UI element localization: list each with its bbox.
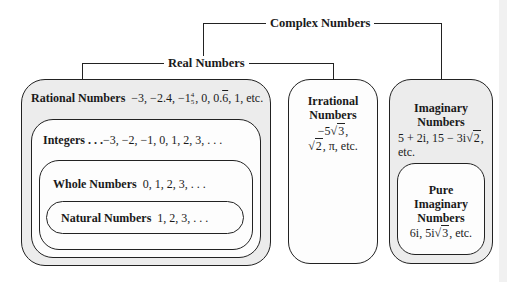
irrational-label-line2: Numbers bbox=[288, 108, 378, 122]
natural-examples: 1, 2, 3, . . . bbox=[157, 211, 208, 225]
rational-numbers-row: Rational Numbers −3, −2.4, −145, 0, 0.6,… bbox=[31, 91, 263, 106]
page-edge-strip bbox=[499, 0, 507, 282]
imaginary-label-line1: Imaginary bbox=[389, 101, 493, 115]
whole-numbers-row: Whole Numbers 0, 1, 2, 3, . . . bbox=[53, 177, 206, 191]
irrational-example-2: √2, π, etc. bbox=[288, 139, 378, 153]
imaginary-label-line2: Numbers bbox=[389, 115, 493, 129]
natural-numbers-row: Natural Numbers 1, 2, 3, . . . bbox=[61, 211, 208, 225]
integers-examples: −3, −2, −1, 0, 1, 2, 3, . . . bbox=[103, 133, 222, 147]
pure-imaginary-label-line2: Imaginary bbox=[397, 197, 485, 211]
integers-row: Integers . . .−3, −2, −1, 0, 1, 2, 3, . … bbox=[43, 133, 222, 147]
imaginary-example-2: etc. bbox=[398, 145, 415, 159]
real-connector-left-vertical bbox=[82, 63, 83, 80]
imaginary-example-1: 5 + 2i, 15 − 3i√2, bbox=[398, 131, 484, 145]
whole-examples: 0, 1, 2, 3, . . . bbox=[143, 177, 206, 191]
irrational-example-1: −5√3, bbox=[288, 124, 378, 138]
fraction: 45 bbox=[191, 92, 195, 106]
pure-imaginary-label-line1: Pure bbox=[397, 183, 485, 197]
real-numbers-label: Real Numbers bbox=[164, 56, 249, 70]
real-connector-right-vertical bbox=[333, 63, 334, 80]
pure-imaginary-example: 6i, 5i√3, etc. bbox=[397, 226, 485, 240]
complex-numbers-label: Complex Numbers bbox=[266, 16, 374, 30]
integers-label: Integers bbox=[43, 133, 85, 147]
irrational-label-line1: Irrational bbox=[288, 94, 378, 108]
rational-examples: −3, −2.4, −1 bbox=[131, 91, 190, 105]
whole-numbers-label: Whole Numbers bbox=[53, 177, 137, 191]
pure-imaginary-label-line3: Numbers bbox=[397, 211, 485, 225]
natural-numbers-label: Natural Numbers bbox=[61, 211, 151, 225]
complex-connector-right-vertical bbox=[441, 23, 442, 80]
rational-numbers-label: Rational Numbers bbox=[31, 91, 125, 105]
